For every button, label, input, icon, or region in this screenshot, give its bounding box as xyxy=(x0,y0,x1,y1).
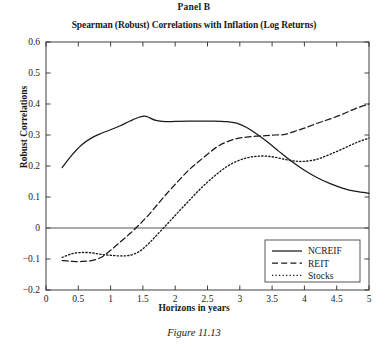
series-line-ncreif xyxy=(62,116,369,193)
x-tick-label-2: 1 xyxy=(108,294,113,304)
x-tick-label-4: 2 xyxy=(173,294,178,304)
y-tick-label-7: 0.5 xyxy=(28,68,40,78)
y-tick-label-8: 0.6 xyxy=(28,37,40,47)
figure-container: Panel B Spearman (Robust) Correlations w… xyxy=(0,0,388,347)
x-tick-label-1: 0.5 xyxy=(72,294,84,304)
x-tick-label-3: 1.5 xyxy=(137,294,149,304)
x-tick-label-0: 0 xyxy=(44,294,49,304)
series-line-reit xyxy=(62,104,369,262)
legend-label-stocks: Stocks xyxy=(308,271,334,281)
y-tick-label-6: 0.4 xyxy=(28,99,40,109)
x-tick-label-8: 4 xyxy=(302,294,307,304)
y-tick-label-3: 0.1 xyxy=(28,192,40,202)
x-tick-label-9: 4.5 xyxy=(331,294,343,304)
legend-label-ncreif: NCREIF xyxy=(308,246,342,256)
y-tick-label-5: 0.3 xyxy=(28,130,40,140)
y-tick-label-1: −0.1 xyxy=(23,254,40,264)
x-tick-label-7: 3.5 xyxy=(266,294,278,304)
x-tick-label-10: 5 xyxy=(367,294,372,304)
figure-caption: Figure 11.13 xyxy=(0,327,388,338)
series-line-stocks xyxy=(62,138,369,257)
x-tick-label-5: 2.5 xyxy=(202,294,214,304)
y-tick-label-4: 0.2 xyxy=(28,161,40,171)
chart-plot-area: 00.511.522.533.544.55−0.2−0.100.10.20.30… xyxy=(0,0,388,347)
y-tick-label-2: 0 xyxy=(35,223,40,233)
y-tick-label-0: −0.2 xyxy=(23,285,40,295)
legend-label-reit: REIT xyxy=(308,259,329,269)
x-tick-label-6: 3 xyxy=(237,294,242,304)
